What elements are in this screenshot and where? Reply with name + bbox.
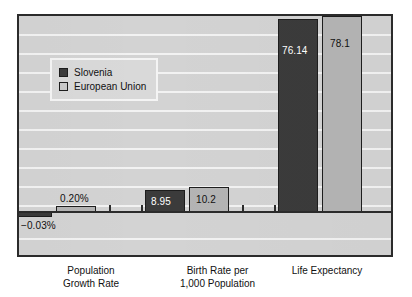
bar-value-eu-birth-rate: 10.2	[196, 194, 216, 205]
category-label-life-expectancy: Life Expectancy	[262, 264, 392, 277]
bar-value-eu-life-expectancy: 78.1	[330, 38, 350, 49]
legend-entry-european-union: European Union	[59, 80, 146, 93]
bar-value-slovenia-birth-rate: 8.95	[151, 196, 171, 207]
bar-value-slovenia-population-growth-rate: −0.03%	[21, 220, 56, 231]
plot-area: 76.14 78.1 8.95 10.2 −0.03% 0.20% Sloven…	[17, 14, 393, 257]
legend-label-slovenia: Slovenia	[74, 67, 112, 78]
legend-entry-slovenia: Slovenia	[59, 66, 146, 79]
category-label-line-2: 1,000 Population	[150, 277, 285, 290]
legend-swatch-icon	[59, 68, 68, 77]
bar-value-slovenia-life-expectancy: 76.14	[282, 45, 308, 56]
category-label-line-1: Life Expectancy	[292, 265, 363, 276]
legend-swatch-icon	[59, 82, 68, 91]
category-label-population-growth-rate: Population Growth Rate	[31, 264, 151, 290]
gridline	[19, 238, 391, 240]
legend-label-european-union: European Union	[74, 81, 146, 92]
category-label-line-1: Birth Rate per	[187, 265, 249, 276]
legend: Slovenia European Union	[50, 58, 158, 101]
zero-axis-line	[19, 211, 391, 213]
category-label-line-1: Population	[67, 265, 114, 276]
category-axis-labels: Population Growth Rate Birth Rate per 1,…	[17, 262, 393, 296]
category-label-line-2: Growth Rate	[31, 277, 151, 290]
bar-value-eu-population-growth-rate: 0.20%	[60, 193, 89, 204]
bar-chart: 76.14 78.1 8.95 10.2 −0.03% 0.20% Sloven…	[0, 0, 412, 297]
